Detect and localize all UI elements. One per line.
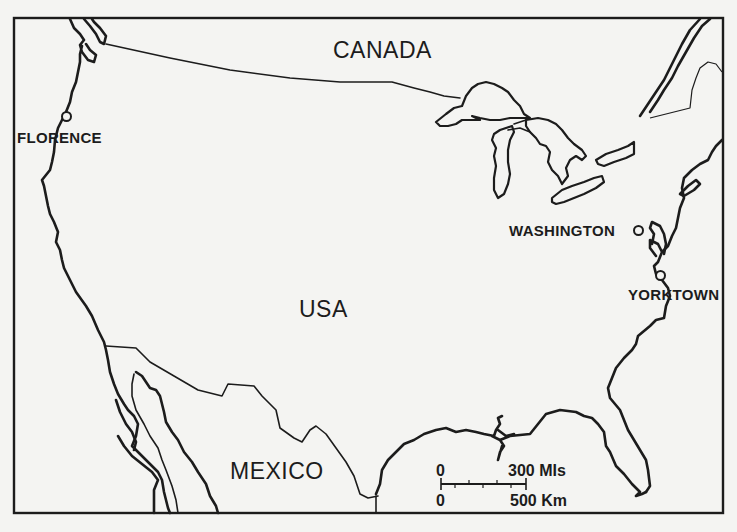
baja-peninsula [116,400,158,513]
city-marker-yorktown [655,270,666,281]
label-florence: FLORENCE [17,130,102,145]
new-england-border [650,62,722,118]
label-canada: CANADA [333,39,432,62]
lake-michigan [492,126,514,198]
map-outline [0,0,737,532]
lake-superior [436,82,530,126]
map-figure: CANADA USA MEXICO FLORENCE WASHINGTON YO… [0,0,737,532]
puget-sound [84,19,106,44]
mexico-west-coast [136,372,218,513]
lake-ontario [596,142,634,166]
city-marker-florence [61,111,72,122]
label-yorktown: YORKTOWN [628,287,719,302]
scale-bar [441,478,526,490]
atlantic-coastline [608,140,722,492]
label-usa: USA [299,298,348,321]
st-lawrence-river [640,19,710,116]
city-marker-washington [633,225,644,236]
scale-miles-label: 300 MIs [508,463,566,479]
label-mexico: MEXICO [230,460,324,483]
lake-huron [526,118,586,184]
pacific-coastline [42,19,170,513]
scale-km-zero: 0 [436,493,445,509]
label-washington: WASHINGTON [509,223,615,238]
scale-miles-zero: 0 [436,463,445,479]
scale-km-label: 500 Km [510,493,567,509]
